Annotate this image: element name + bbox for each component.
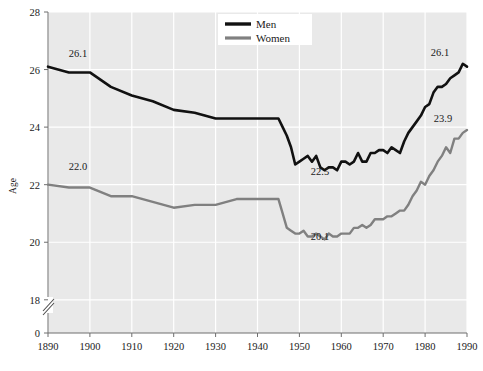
y-tick-label: 0 bbox=[35, 328, 40, 339]
line-chart: 2826242220180 18901900191019201930194019… bbox=[0, 0, 483, 371]
x-tick-label: 1890 bbox=[38, 341, 59, 352]
x-tick-label: 1900 bbox=[79, 341, 100, 352]
x-tick-label: 1960 bbox=[331, 341, 352, 352]
y-tick-label: 26 bbox=[30, 65, 41, 76]
annotation-men-start: 26.1 bbox=[69, 48, 87, 59]
x-tick-label: 1930 bbox=[205, 341, 226, 352]
chart-container: 2826242220180 18901900191019201930194019… bbox=[0, 0, 483, 371]
annotation-women-min: 20.1 bbox=[311, 231, 329, 242]
annotation-men-min: 22.5 bbox=[311, 166, 329, 177]
x-tick-label: 1920 bbox=[163, 341, 184, 352]
annotation-women-end: 23.9 bbox=[434, 113, 452, 124]
legend-label-men: Men bbox=[256, 18, 277, 30]
y-axis-title: Age bbox=[8, 178, 18, 194]
x-tick-label: 1910 bbox=[121, 341, 142, 352]
chart-legend: Men Women bbox=[218, 14, 312, 45]
y-tick-label: 24 bbox=[30, 122, 41, 133]
annotation-women-start: 22.0 bbox=[69, 161, 87, 172]
x-tick-label: 1950 bbox=[289, 341, 310, 352]
y-tick-label: 28 bbox=[30, 7, 41, 18]
x-tick-label: 1980 bbox=[415, 341, 436, 352]
annotation-men-end: 26.1 bbox=[431, 47, 449, 58]
y-tick-label: 18 bbox=[30, 295, 41, 306]
y-tick-label: 22 bbox=[30, 180, 41, 191]
x-tick-label: 1990 bbox=[457, 341, 478, 352]
legend-label-women: Women bbox=[256, 32, 290, 44]
x-tick-label: 1970 bbox=[373, 341, 394, 352]
x-tick-label: 1940 bbox=[247, 341, 268, 352]
y-tick-label: 20 bbox=[30, 237, 41, 248]
